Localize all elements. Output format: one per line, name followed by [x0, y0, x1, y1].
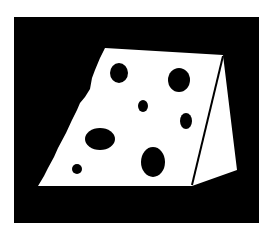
cheese-illustration [0, 0, 274, 237]
cheese-hole [180, 113, 192, 129]
cheese-hole [85, 128, 115, 150]
cheese-hole [138, 100, 148, 112]
cheese-hole [110, 63, 128, 83]
cheese-hole [168, 68, 190, 92]
cheese-hole [72, 164, 82, 174]
cheese-hole [141, 147, 165, 177]
